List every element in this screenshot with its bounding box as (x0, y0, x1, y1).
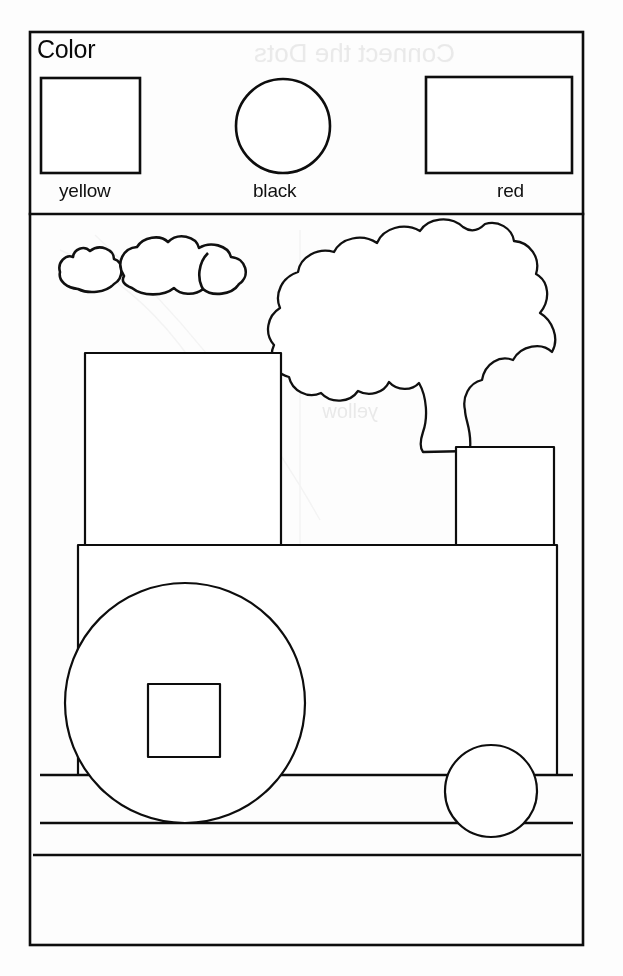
bleed-text-connect-the-dots: Connect the Dots (254, 38, 455, 68)
swatch-label-black: black (253, 180, 296, 202)
train-wheel-hub (148, 684, 220, 757)
swatch-label-yellow: yellow (59, 180, 111, 202)
worksheet-canvas: Connect the Dots picture of Color blue y… (0, 0, 623, 976)
swatch-shape-yellow[interactable] (41, 78, 140, 173)
worksheet-page: Connect the Dots picture of Color blue y… (0, 0, 623, 976)
bleed-text-yellow: yellow (322, 400, 378, 422)
swatch-shape-black[interactable] (236, 79, 330, 173)
page-title: Color (37, 35, 95, 64)
train-small-wheel (445, 745, 537, 837)
train-cab (85, 353, 281, 545)
swatch-label-red: red (497, 180, 524, 202)
large-cloud (120, 236, 245, 294)
swatch-shape-red[interactable] (426, 77, 572, 173)
smoke-plume (268, 219, 555, 452)
train-chimney (456, 447, 554, 545)
